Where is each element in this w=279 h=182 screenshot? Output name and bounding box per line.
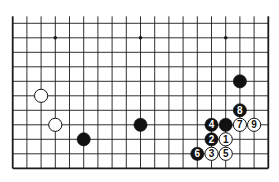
black-stone-2: 2 xyxy=(205,133,218,146)
move-number: 8 xyxy=(237,105,243,116)
move-number: 3 xyxy=(209,148,215,159)
white-stone-7: 7 xyxy=(233,118,246,131)
star-point xyxy=(224,36,228,40)
white-stone-5: 5 xyxy=(219,147,232,160)
move-number: 1 xyxy=(223,134,229,145)
move-number: 6 xyxy=(195,148,201,159)
black-stone xyxy=(134,118,147,131)
star-point xyxy=(54,36,58,40)
white-stone-1: 1 xyxy=(219,133,232,146)
move-number: 9 xyxy=(251,119,257,130)
black-stone-6: 6 xyxy=(191,147,204,160)
stones-layer: 123456789 xyxy=(35,75,261,161)
black-stone xyxy=(77,133,90,146)
white-stone xyxy=(35,89,48,102)
move-number: 2 xyxy=(209,134,215,145)
black-stone xyxy=(233,75,246,88)
white-stone-3: 3 xyxy=(205,147,218,160)
move-number: 7 xyxy=(237,119,243,130)
go-board-diagram: 123456789 xyxy=(0,0,279,182)
move-number: 5 xyxy=(223,148,229,159)
move-number: 4 xyxy=(209,119,215,130)
white-stone-9: 9 xyxy=(248,118,261,131)
black-stone-8: 8 xyxy=(233,104,246,117)
white-stone xyxy=(49,118,62,131)
black-stone xyxy=(219,118,232,131)
star-point xyxy=(139,36,143,40)
black-stone-4: 4 xyxy=(205,118,218,131)
